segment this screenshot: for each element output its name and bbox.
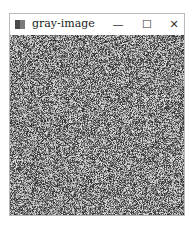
app-icon [15,20,25,29]
maximize-button[interactable]: ☐ [133,14,161,35]
window-title: gray-image [32,17,95,30]
minimize-button[interactable]: — [104,14,132,35]
noise-image [10,35,184,215]
image-window: gray-image — ☐ ✕ [9,13,185,216]
close-button[interactable]: ✕ [160,14,188,35]
title-bar[interactable]: gray-image — ☐ ✕ [10,14,184,35]
